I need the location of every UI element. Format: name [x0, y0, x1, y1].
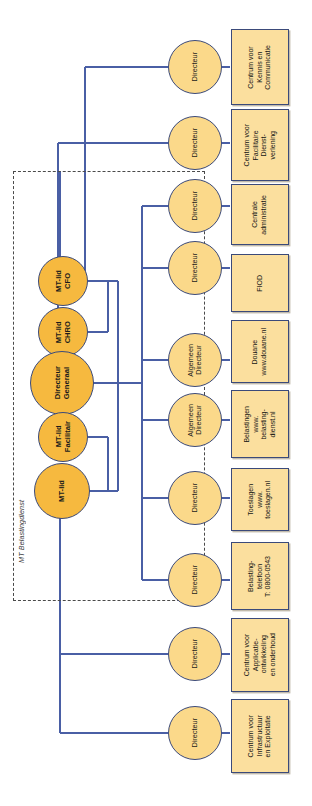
unit-box-infrastructuur-en-exploitatie[interactable]: Centrum voor Infrastructuur en Exploitat…	[231, 699, 289, 773]
node-label: Directeur	[191, 191, 199, 221]
unit-label: FIOD	[256, 275, 265, 292]
unit-box-facilitaire-dienstverlening[interactable]: Centrum voor Facilitaire Dienst- verleni…	[231, 109, 289, 181]
mt-belastingdienst-group-label: MT Belastingdienst	[17, 500, 26, 563]
node-directeur-toeslagen[interactable]: Directeur	[168, 471, 222, 525]
node-label: Directeur	[191, 718, 199, 748]
node-label: Algemeen Directeur	[187, 344, 203, 377]
unit-label: Douane www.douane.nl	[251, 328, 268, 375]
node-label: Directeur	[191, 253, 199, 283]
unit-box-belastingtelefoon[interactable]: Belasting- telefoon T: 0800-0543	[231, 542, 289, 610]
node-directeur-facilitaire-dienstverlening[interactable]: Directeur	[168, 116, 222, 170]
node-directeur-applicatieontwikkeling[interactable]: Directeur	[168, 627, 222, 681]
node-label: Directeur Generaal	[54, 366, 71, 399]
node-label: Directeur	[191, 483, 199, 513]
unit-label: Belasting- telefoon T: 0800-0543	[247, 556, 273, 597]
unit-label: Centrum voor Applicatie- ontwikkeling en…	[243, 633, 277, 676]
node-mt-lid-chro[interactable]: MT-lid CHRO	[38, 307, 88, 357]
node-mt-lid[interactable]: MT-lid	[34, 463, 90, 519]
node-algemeen-directeur-douane[interactable]: Algemeen Directeur	[168, 333, 222, 387]
node-directeur-centrale-administratie[interactable]: Directeur	[168, 179, 222, 233]
node-mt-lid-cfo[interactable]: MT-lid CFO	[38, 256, 88, 306]
node-label: MT-lid Facilitair	[55, 421, 72, 452]
unit-box-toeslagen[interactable]: Toeslagen www. toeslagen.nl	[231, 468, 289, 531]
node-label: MT-lid CFO	[55, 270, 72, 292]
node-label: Directeur	[191, 52, 199, 82]
node-label: Directeur	[191, 128, 199, 158]
node-label: MT-lid CHRO	[55, 321, 72, 343]
node-label: Directeur	[191, 639, 199, 669]
node-label: Directeur	[191, 565, 199, 595]
unit-label: Toeslagen www. toeslagen.nl	[247, 481, 273, 519]
unit-box-belastingen[interactable]: Belastingen www. belasting- dienst.nl	[231, 390, 289, 458]
unit-box-centrale-administratie[interactable]: Centrale administratie	[231, 184, 289, 245]
unit-label: Centrum voor Kennis en Communicatie	[247, 45, 273, 90]
node-label: MT-lid	[58, 480, 67, 502]
unit-label: Centrum voor Facilitaire Dienst- verleni…	[243, 124, 277, 166]
unit-label: Centrale administratie	[251, 195, 268, 235]
node-directeur-belastingtelefoon[interactable]: Directeur	[168, 553, 222, 607]
unit-box-applicatieontwikkeling-en-onderhoud[interactable]: Centrum voor Applicatie- ontwikkeling en…	[231, 618, 289, 692]
unit-box-fiod[interactable]: FIOD	[231, 254, 289, 312]
unit-box-douane[interactable]: Douane www.douane.nl	[231, 320, 289, 383]
unit-box-kennis-en-communicatie[interactable]: Centrum voor Kennis en Communicatie	[231, 29, 289, 105]
node-algemeen-directeur-belastingen[interactable]: Algemeen Directeur	[168, 393, 222, 447]
unit-label: Belastingen www. belasting- dienst.nl	[243, 406, 277, 443]
node-directeur-generaal[interactable]: Directeur Generaal	[30, 351, 94, 415]
unit-label: Centrum voor Infrastructuur en Exploitat…	[247, 715, 273, 757]
node-directeur-fiod[interactable]: Directeur	[168, 241, 222, 295]
org-chart-canvas: MT Belastingdienst MT-lid CFO MT-lid CHR…	[0, 0, 312, 806]
node-label: Algemeen Directeur	[187, 404, 203, 437]
node-mt-lid-facilitair[interactable]: MT-lid Facilitair	[38, 412, 88, 462]
node-directeur-kennis-communicatie[interactable]: Directeur	[168, 40, 222, 94]
node-directeur-infrastructuur-exploitatie[interactable]: Directeur	[168, 706, 222, 760]
